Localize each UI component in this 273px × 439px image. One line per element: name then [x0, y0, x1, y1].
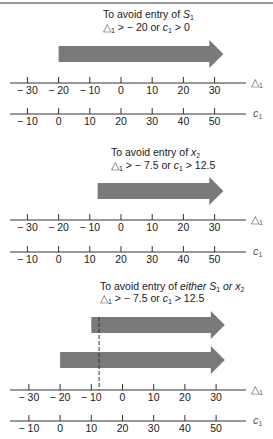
c-axis-tick-label: 30 [148, 422, 160, 434]
c-axis-tick-label: 30 [146, 253, 158, 265]
panel-3: To avoid entry of either S1 or x2△1 > − … [10, 280, 263, 434]
panel-condition: △1 > − 7.5 or c1 > 12.5 [100, 292, 204, 305]
c-axis-tick-label: 10 [85, 422, 97, 434]
c-axis-tick-label: 10 [84, 115, 96, 127]
ranging-diagram: To avoid entry of S1△1 > − 20 or c1 > 0−… [0, 0, 273, 439]
c-axis-tick-label: − 10 [19, 422, 40, 434]
delta-axis-name: △1 [251, 213, 263, 226]
c-axis-name: c1 [253, 107, 263, 120]
delta-axis-tick-label: 0 [120, 391, 126, 403]
c-axis-tick-label: 40 [179, 422, 191, 434]
delta-axis-tick-label: 20 [178, 221, 190, 233]
delta-axis-tick-label: 30 [209, 221, 221, 233]
delta-axis-tick-label: 10 [146, 84, 158, 96]
c-axis-tick-label: 30 [146, 115, 158, 127]
range-arrow [91, 311, 225, 339]
delta-axis-tick-label: 10 [146, 221, 158, 233]
delta-axis-tick-label: − 20 [50, 391, 71, 403]
delta-axis-tick-label: − 30 [19, 391, 40, 403]
c-axis-tick-label: 0 [56, 115, 62, 127]
c-axis-name: c1 [253, 414, 263, 427]
c-axis-tick-label: 50 [209, 115, 221, 127]
c-axis-tick-label: − 10 [17, 253, 38, 265]
panel-title: To avoid entry of S1 [103, 8, 194, 21]
panel-2: To avoid entry of x2△1 > − 7.5 or c1 > 1… [10, 146, 263, 265]
delta-axis-tick-label: − 10 [79, 221, 100, 233]
range-arrow [59, 40, 224, 68]
delta-axis-tick-label: 10 [148, 391, 160, 403]
delta-axis-tick-label: 20 [178, 84, 190, 96]
c-axis-tick-label: 0 [57, 422, 63, 434]
delta-axis-name: △1 [251, 383, 263, 396]
c-axis-tick-label: 40 [178, 115, 190, 127]
delta-axis-tick-label: 30 [209, 84, 221, 96]
delta-axis-tick-label: − 10 [79, 84, 100, 96]
delta-axis-tick-label: − 30 [17, 221, 38, 233]
range-arrow [60, 346, 225, 374]
panel-condition: △1 > − 20 or c1 > 0 [103, 21, 190, 34]
delta-axis-tick-label: − 30 [17, 84, 38, 96]
c-axis-tick-label: 20 [115, 115, 127, 127]
c-axis-tick-label: − 10 [17, 115, 38, 127]
c-axis-name: c1 [253, 245, 263, 258]
delta-axis-tick-label: 30 [210, 391, 222, 403]
delta-axis-tick-label: − 10 [81, 391, 102, 403]
delta-axis-name: △1 [251, 76, 263, 89]
delta-axis-tick-label: 0 [118, 84, 124, 96]
c-axis-tick-label: 0 [56, 253, 62, 265]
c-axis-tick-label: 10 [84, 253, 96, 265]
panel-condition: △1 > − 7.5 or c1 > 12.5 [111, 159, 215, 172]
c-axis-tick-label: 50 [209, 253, 221, 265]
delta-axis-tick-label: − 20 [48, 84, 69, 96]
panel-title: To avoid entry of x2 [111, 146, 200, 159]
c-axis-tick-label: 50 [210, 422, 222, 434]
delta-axis-tick-label: 20 [179, 391, 191, 403]
delta-axis-tick-label: 0 [118, 221, 124, 233]
c-axis-tick-label: 20 [117, 422, 129, 434]
delta-axis-tick-label: − 20 [48, 221, 69, 233]
range-arrow [98, 177, 224, 205]
c-axis-tick-label: 40 [178, 253, 190, 265]
c-axis-tick-label: 20 [115, 253, 127, 265]
panel-1: To avoid entry of S1△1 > − 20 or c1 > 0−… [10, 8, 263, 127]
